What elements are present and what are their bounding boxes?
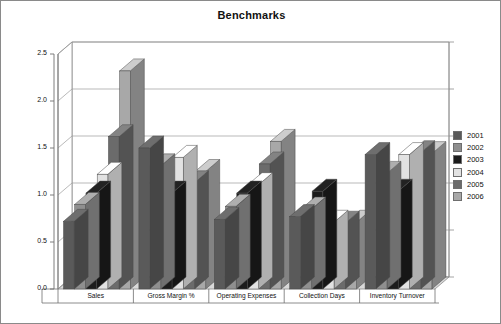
bar-2001-collection-days[interactable] [290, 205, 315, 289]
legend-item-label: 2005 [467, 180, 484, 189]
y-axis-tick-label: 0.5 [15, 237, 47, 244]
legend-item-label: 2001 [467, 131, 484, 140]
bar-2001-sales[interactable] [64, 209, 89, 289]
legend-item[interactable]: 2001 [453, 131, 484, 140]
bar-2001-inventory-turnover[interactable] [365, 143, 390, 289]
x-axis-category-label: Inventory Turnover [360, 292, 435, 299]
bar-2001-gross-margin-[interactable] [139, 136, 164, 289]
legend-swatch-icon [453, 180, 462, 189]
y-axis-tick-label: 1.5 [15, 143, 47, 150]
legend-item-label: 2006 [467, 192, 484, 201]
x-axis-category-label: Collection Days [284, 292, 359, 299]
y-axis-tick-label: 0.0 [15, 284, 47, 291]
legend-item-label: 2002 [467, 143, 484, 152]
legend-swatch-icon [453, 192, 462, 201]
legend-item-label: 2004 [467, 168, 484, 177]
legend-item[interactable]: 2005 [453, 180, 484, 189]
chart-container: Benchmarks 200120022003200420052006 0.00… [0, 0, 501, 324]
legend-swatch-icon [453, 155, 462, 164]
bar-2001-operating-expenses[interactable] [214, 207, 239, 289]
legend-swatch-icon [453, 131, 462, 140]
legend-swatch-icon [453, 168, 462, 177]
legend-item[interactable]: 2006 [453, 192, 484, 201]
y-axis-tick-label: 2.5 [15, 49, 47, 56]
y-axis-tick-label: 2.0 [15, 96, 47, 103]
x-axis-category-label: Gross Margin % [133, 292, 208, 299]
legend-item[interactable]: 2002 [453, 143, 484, 152]
legend-item-label: 2003 [467, 155, 484, 164]
legend-swatch-icon [453, 143, 462, 152]
x-axis-category-label: Operating Expenses [209, 292, 284, 299]
y-axis-tick-label: 1.0 [15, 190, 47, 197]
x-axis-category-label: Sales [58, 292, 133, 299]
chart-plot-area [1, 1, 501, 324]
legend-item[interactable]: 2003 [453, 155, 484, 164]
chart-legend: 200120022003200420052006 [453, 131, 484, 201]
legend-item[interactable]: 2004 [453, 168, 484, 177]
